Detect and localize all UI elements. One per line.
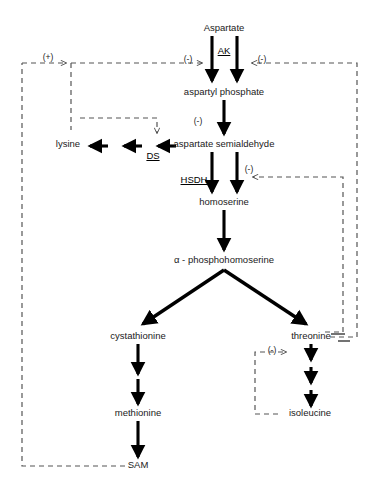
node-homoserine: homoserine — [199, 196, 249, 207]
sign-lysine-inhibits-ak: (-) — [184, 55, 193, 64]
arrow-branch-to-threonine — [224, 270, 306, 324]
enzyme-ak: AK — [218, 45, 231, 56]
branch-arrows — [143, 270, 306, 324]
arrow-branch-to-cystathionine — [143, 270, 224, 324]
pathway-arrows — [138, 36, 311, 457]
sign-threonine-inhibits-hsdh: (-) — [245, 165, 254, 174]
arrow-isoleucine-inhibits-threonine-deaminase — [255, 352, 286, 414]
sign-isoleucine-inhibits-threonine: (-) — [268, 346, 277, 355]
node-lysine: lysine — [56, 138, 80, 149]
node-methionine: methionine — [115, 407, 161, 418]
node-threonine: threonine — [291, 330, 331, 341]
sign-sam-activation: (+) — [43, 53, 54, 62]
node-alpha-phosphohomoserine: α - phosphohomoserine — [174, 254, 274, 265]
enzyme-hsdh: HSDH — [181, 174, 208, 185]
node-aspartate-semialdehyde: aspartate semialdehyde — [174, 138, 275, 149]
node-aspartate: Aspartate — [204, 22, 245, 33]
node-isoleucine: isoleucine — [289, 407, 331, 418]
node-aspartyl-phosphate: aspartyl phosphate — [184, 86, 264, 97]
line-sam-to-activation — [22, 63, 125, 466]
sign-threonine-inhibits-ak: (-) — [258, 55, 267, 64]
node-sam: SAM — [128, 459, 149, 470]
arrow-threonine-inhibits-ak — [252, 63, 357, 337]
node-cystathionine: cystathionine — [110, 330, 165, 341]
sign-lysine-inhibits-ds: (-) — [194, 117, 203, 126]
pathway-diagram — [0, 0, 376, 492]
enzyme-ds: DS — [146, 150, 159, 161]
arrow-lysine-inhibits-ds — [80, 118, 157, 133]
